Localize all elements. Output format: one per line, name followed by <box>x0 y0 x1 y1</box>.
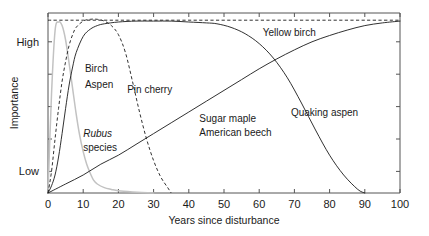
x-tick-label-100: 100 <box>391 198 409 210</box>
annotation-pin-cherry: Pin cherry <box>127 84 172 95</box>
succession-chart: 0102030405060708090100 LowHigh BirchAspe… <box>0 0 429 236</box>
x-axis-tick-labels: 0102030405060708090100 <box>45 198 409 210</box>
x-axis-ticks <box>48 13 400 193</box>
annotation-birch: Birch <box>85 63 108 74</box>
y-tick-label-high: High <box>16 36 39 48</box>
x-tick-label-10: 10 <box>77 198 89 210</box>
x-tick-label-30: 30 <box>147 198 159 210</box>
x-tick-label-60: 60 <box>253 198 265 210</box>
x-tick-label-0: 0 <box>45 198 51 210</box>
annotation-species: species <box>83 142 117 153</box>
x-tick-label-50: 50 <box>218 198 230 210</box>
x-tick-label-40: 40 <box>183 198 195 210</box>
x-tick-label-70: 70 <box>288 198 300 210</box>
annotation-american-beech: American beech <box>199 127 271 138</box>
x-tick-label-80: 80 <box>323 198 335 210</box>
y-axis-title: Importance <box>8 77 20 130</box>
chart-container: 0102030405060708090100 LowHigh BirchAspe… <box>0 0 429 236</box>
x-tick-label-90: 90 <box>359 198 371 210</box>
annotation-sugar-maple: Sugar maple <box>199 113 256 124</box>
y-tick-label-low: Low <box>19 165 39 177</box>
annotation-quaking-aspen: Quaking aspen <box>291 107 358 118</box>
annotation-rubus: Rubus <box>83 128 112 139</box>
x-axis-title: Years since disturbance <box>168 214 279 226</box>
annotation-aspen: Aspen <box>85 79 113 90</box>
x-tick-label-20: 20 <box>112 198 124 210</box>
curve-rubus-species <box>48 22 154 193</box>
annotation-yellow-birch: Yellow birch <box>263 27 316 38</box>
plot-frame <box>48 13 400 193</box>
series-annotations: BirchAspenPin cherryRubusspeciesSugar ma… <box>83 27 358 153</box>
